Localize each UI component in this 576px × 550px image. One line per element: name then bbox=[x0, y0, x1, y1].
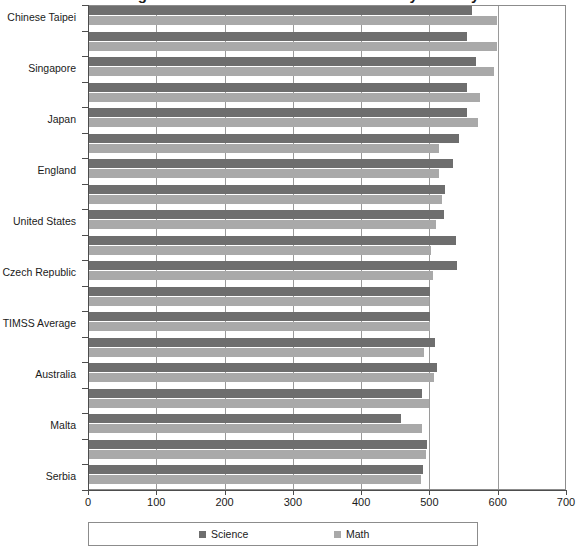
bar-group bbox=[89, 337, 566, 363]
y-axis-label: Malta bbox=[50, 420, 76, 431]
bar-science bbox=[89, 363, 437, 372]
bar-group bbox=[89, 184, 566, 210]
legend-item-math[interactable]: Math bbox=[334, 527, 369, 541]
y-axis-label: Singapore bbox=[28, 63, 76, 74]
y-axis-label: United States bbox=[13, 216, 76, 227]
bar-math bbox=[89, 373, 434, 382]
y-axis-label: TIMSS Average bbox=[3, 318, 76, 329]
bar-group bbox=[89, 260, 566, 286]
bar-science bbox=[89, 108, 467, 117]
bar-group bbox=[89, 362, 566, 388]
bar-math bbox=[89, 195, 442, 204]
x-axis-label: 600 bbox=[489, 496, 507, 508]
bar-math bbox=[89, 399, 429, 408]
bar-math bbox=[89, 450, 426, 459]
legend-swatch-icon bbox=[199, 531, 206, 538]
y-axis-label: Chinese Taipei bbox=[7, 12, 76, 23]
bar-science bbox=[89, 159, 453, 168]
x-axis-label: 500 bbox=[420, 496, 438, 508]
bar-group bbox=[89, 413, 566, 439]
bars-layer bbox=[89, 5, 566, 490]
bar-group bbox=[89, 158, 566, 184]
bar-group bbox=[89, 82, 566, 108]
x-axis-line bbox=[88, 490, 566, 491]
bar-science bbox=[89, 32, 467, 41]
bar-science bbox=[89, 338, 435, 347]
bar-group bbox=[89, 133, 566, 159]
bar-group bbox=[89, 5, 566, 31]
x-axis-label: 100 bbox=[147, 496, 165, 508]
y-axis-label: Czech Republic bbox=[2, 267, 76, 278]
bar-chart: Average Science and Mathematics Scores b… bbox=[0, 0, 576, 550]
bar-science bbox=[89, 185, 445, 194]
bar-group bbox=[89, 209, 566, 235]
bar-math bbox=[89, 67, 494, 76]
legend-label: Math bbox=[346, 527, 369, 541]
bar-math bbox=[89, 322, 430, 331]
bar-science bbox=[89, 6, 472, 15]
bar-science bbox=[89, 287, 430, 296]
bar-science bbox=[89, 414, 401, 423]
bar-science bbox=[89, 312, 430, 321]
bar-science bbox=[89, 261, 457, 270]
bar-group bbox=[89, 464, 566, 490]
bar-science bbox=[89, 134, 459, 143]
bar-group bbox=[89, 107, 566, 133]
bar-group bbox=[89, 235, 566, 261]
x-axis-label: 700 bbox=[557, 496, 575, 508]
bar-group bbox=[89, 286, 566, 312]
bar-math bbox=[89, 424, 422, 433]
y-axis-label: Serbia bbox=[46, 471, 76, 482]
bar-group bbox=[89, 388, 566, 414]
bar-science bbox=[89, 389, 422, 398]
bar-math bbox=[89, 297, 429, 306]
bar-group bbox=[89, 56, 566, 82]
bar-science bbox=[89, 465, 423, 474]
y-axis-label: Japan bbox=[47, 114, 76, 125]
legend-swatch-icon bbox=[334, 531, 341, 538]
bar-science bbox=[89, 83, 467, 92]
legend-item-science[interactable]: Science bbox=[199, 527, 248, 541]
x-axis-tick bbox=[566, 490, 567, 495]
y-axis-label: England bbox=[37, 165, 76, 176]
bar-math bbox=[89, 246, 431, 255]
bar-group bbox=[89, 311, 566, 337]
bar-math bbox=[89, 118, 478, 127]
x-axis-label: 200 bbox=[215, 496, 233, 508]
bar-science bbox=[89, 57, 476, 66]
bar-math bbox=[89, 144, 439, 153]
bar-math bbox=[89, 42, 497, 51]
bar-math bbox=[89, 93, 480, 102]
bar-math bbox=[89, 220, 436, 229]
bar-math bbox=[89, 271, 433, 280]
x-axis-label: 300 bbox=[284, 496, 302, 508]
bar-math bbox=[89, 475, 421, 484]
bar-group bbox=[89, 31, 566, 57]
y-axis-label: Australia bbox=[35, 369, 76, 380]
x-axis-label: 400 bbox=[352, 496, 370, 508]
x-axis-label: 0 bbox=[85, 496, 91, 508]
bar-math bbox=[89, 169, 439, 178]
bar-math bbox=[89, 16, 497, 25]
bar-science bbox=[89, 236, 456, 245]
chart-legend: ScienceMath bbox=[88, 522, 478, 546]
legend-label: Science bbox=[211, 527, 248, 541]
bar-group bbox=[89, 439, 566, 465]
y-axis: SerbiaMaltaAustraliaTIMSS AverageCzech R… bbox=[0, 0, 88, 500]
bar-math bbox=[89, 348, 424, 357]
bar-science bbox=[89, 440, 427, 449]
y-axis-line bbox=[88, 5, 89, 491]
bar-science bbox=[89, 210, 444, 219]
